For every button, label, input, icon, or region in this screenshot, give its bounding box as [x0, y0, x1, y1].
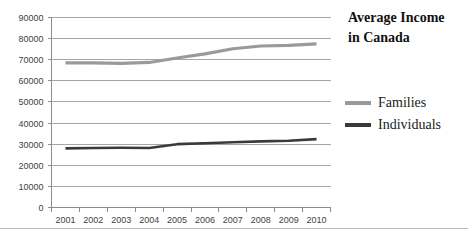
chart-container: 0100002000030000400005000060000700008000… — [0, 0, 468, 242]
series-line-families — [65, 44, 316, 63]
gridlines-group — [52, 18, 331, 187]
chart-title-line-2: in Canada — [348, 28, 466, 48]
legend-label: Individuals — [378, 117, 441, 133]
y-axis-labels: 0100002000030000400005000060000700008000… — [18, 13, 43, 213]
x-axis-tick-label: 2008 — [251, 215, 271, 225]
y-axis-tick-label: 40000 — [18, 119, 43, 129]
y-axis-tick-label: 10000 — [18, 182, 43, 192]
x-axis-tick-label: 2006 — [195, 215, 215, 225]
y-axis-tick-label: 80000 — [18, 34, 43, 44]
x-axis-tick-label: 2010 — [307, 215, 327, 225]
x-axis-tick-label: 2007 — [223, 215, 243, 225]
y-axis-tick-label: 30000 — [18, 140, 43, 150]
plot-area: 0100002000030000400005000060000700008000… — [0, 0, 340, 230]
legend-item[interactable]: Individuals — [345, 114, 468, 136]
y-axis-tick-label: 0 — [38, 203, 43, 213]
x-axis-tick-label: 2005 — [167, 215, 187, 225]
y-axis-tick-label: 90000 — [18, 13, 43, 23]
legend-item[interactable]: Families — [345, 92, 468, 114]
chart-title-line-1: Average Income — [348, 8, 466, 28]
x-axis-tick-label: 2009 — [279, 215, 299, 225]
y-axis-tick-label: 50000 — [18, 97, 43, 107]
x-axis-tick-label: 2001 — [55, 215, 75, 225]
x-axis-tick-label: 2004 — [139, 215, 159, 225]
legend-swatch-families — [345, 101, 371, 105]
y-axis-tick-label: 20000 — [18, 161, 43, 171]
x-axis-tick-label: 2002 — [83, 215, 103, 225]
line-chart-svg: 0100002000030000400005000060000700008000… — [0, 0, 340, 230]
x-axis-labels: 2001200220032004200520062007200820092010 — [55, 215, 326, 225]
x-axis-tick-label: 2003 — [111, 215, 131, 225]
y-axis-tick-label: 70000 — [18, 55, 43, 65]
chart-title: Average Income in Canada — [348, 8, 466, 48]
chart-legend: FamiliesIndividuals — [345, 92, 468, 136]
y-axis-tick-label: 60000 — [18, 76, 43, 86]
legend-label: Families — [378, 95, 426, 111]
legend-swatch-individuals — [345, 123, 371, 127]
